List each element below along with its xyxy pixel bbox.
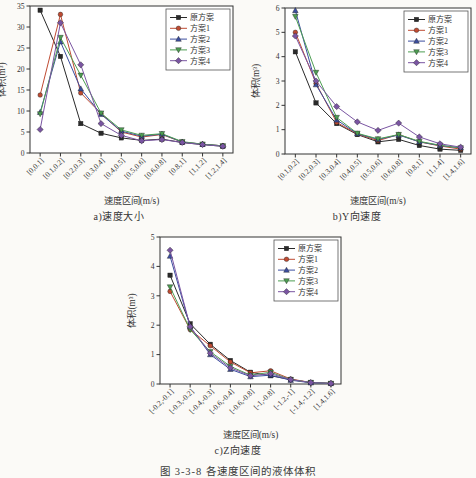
svg-text:[0.1,0.2]: [0.1,0.2] [41,156,66,181]
svg-text:[0.5,0.6]: [0.5,0.6] [359,157,384,182]
svg-text:[0.8,1]: [0.8,1] [167,156,188,177]
chart-velocity-magnitude: 05101520253035[0,0.1][0.1,0.2][0.2,0.3][… [0,0,238,228]
svg-text:方案4: 方案4 [428,58,448,68]
svg-text:原方案: 原方案 [190,12,214,22]
svg-text:30: 30 [17,23,25,32]
svg-text:[0.1,0.2]: [0.1,0.2] [276,157,301,182]
svg-text:原方案: 原方案 [298,243,322,253]
svg-text:体积(m³): 体积(m³) [0,62,8,96]
svg-text:[1.4,1.6]: [1.4,1.6] [441,157,466,182]
svg-text:[0.4,0.5]: [0.4,0.5] [102,156,127,181]
svg-text:3: 3 [151,292,155,301]
chart-z-velocity-canvas: 012345[-0.2,-0.1][-0.3,-0.2][-0.4,-0.3][… [117,230,359,444]
svg-text:[0.6,0.8]: [0.6,0.8] [379,157,404,182]
svg-text:0: 0 [276,150,280,159]
svg-text:方案1: 方案1 [298,254,318,264]
figure-caption: 图 3-3-8 各速度区间的液体体积 [0,463,476,478]
svg-text:方案4: 方案4 [298,287,318,297]
svg-text:[0.3,0.4]: [0.3,0.4] [317,157,342,182]
svg-text:方案2: 方案2 [190,34,210,44]
svg-text:20: 20 [17,65,25,74]
chart-y-velocity-canvas: 0123456[0.1,0.2][0.2,0.3][0.3,0.4][0.4,0… [238,0,476,210]
svg-text:方案1: 方案1 [190,23,210,33]
svg-text:体积(m³): 体积(m³) [126,293,138,327]
svg-text:速度区间(m/s): 速度区间(m/s) [223,429,279,441]
svg-text:1: 1 [151,350,155,359]
chart-z-velocity: 012345[-0.2,-0.1][-0.3,-0.2][-0.4,-0.3][… [117,230,359,462]
svg-text:[0.2,0.3]: [0.2,0.3] [297,157,322,182]
svg-text:[1.4,1.6]: [1.4,1.6] [312,387,337,412]
svg-text:5: 5 [151,233,155,242]
chart-y-velocity: 0123456[0.1,0.2][0.2,0.3][0.3,0.4][0.4,0… [238,0,476,228]
svg-text:4: 4 [151,262,155,271]
svg-text:35: 35 [17,2,25,11]
chart-b-subtitle: b)Y向速度 [238,208,476,223]
svg-text:15: 15 [17,86,25,95]
svg-text:方案2: 方案2 [298,265,318,275]
svg-text:速度区间(m/s): 速度区间(m/s) [104,195,160,207]
svg-text:方案3: 方案3 [190,45,210,55]
svg-text:0: 0 [151,380,155,389]
svg-text:[1.2,1.4]: [1.2,1.4] [204,156,229,181]
chart-velocity-magnitude-canvas: 05101520253035[0,0.1][0.1,0.2][0.2,0.3][… [0,0,238,210]
svg-text:体积(m³): 体积(m³) [250,64,262,98]
svg-text:速度区间(m/s): 速度区间(m/s) [350,195,406,207]
svg-text:原方案: 原方案 [428,14,452,24]
svg-text:1: 1 [276,125,280,134]
svg-text:[0.8,1]: [0.8,1] [404,157,425,178]
svg-text:2: 2 [151,321,155,330]
svg-text:方案2: 方案2 [428,36,448,46]
svg-text:方案4: 方案4 [190,56,210,66]
chart-c-subtitle: c)Z向速度 [117,442,359,457]
svg-text:5: 5 [276,28,280,37]
svg-text:[0.3,0.4]: [0.3,0.4] [82,156,107,181]
svg-text:方案3: 方案3 [298,276,318,286]
svg-text:方案1: 方案1 [428,25,448,35]
svg-text:[0.6,0.8]: [0.6,0.8] [143,156,168,181]
chart-a-subtitle: a)速度大小 [0,208,238,223]
svg-text:[0.4,0.5]: [0.4,0.5] [338,157,363,182]
svg-text:4: 4 [276,52,280,61]
svg-text:0: 0 [21,149,25,158]
svg-text:2: 2 [276,101,280,110]
svg-text:6: 6 [276,4,280,13]
svg-text:[0.2,0.3]: [0.2,0.3] [61,156,86,181]
svg-text:[0.5,0.6]: [0.5,0.6] [122,156,147,181]
svg-text:10: 10 [17,107,25,116]
svg-text:3: 3 [276,77,280,86]
svg-text:5: 5 [21,128,25,137]
svg-text:方案3: 方案3 [428,47,448,57]
svg-text:[-1,-0.8]: [-1,-0.8] [252,387,276,411]
svg-text:25: 25 [17,44,25,53]
